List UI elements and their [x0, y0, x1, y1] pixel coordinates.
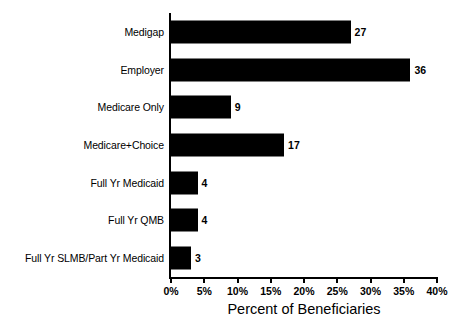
x-axis-tick [370, 277, 372, 283]
bar-value-label: 4 [202, 214, 208, 226]
category-label: Full Yr Medicaid [91, 177, 164, 189]
category-label: Medicare Only [98, 101, 164, 113]
bar-value-label: 3 [195, 252, 201, 264]
category-label: Employer [120, 64, 164, 76]
x-axis-tick-label: 0% [163, 285, 178, 297]
bar-value-label: 27 [355, 26, 367, 38]
bar-chart: Medigap 27 Employer 36 Medicare Only 9 M… [0, 0, 469, 328]
x-axis-tick [336, 277, 338, 283]
x-axis-tick-label: 35% [393, 285, 414, 297]
x-axis-tick-label: 40% [426, 285, 447, 297]
x-axis-tick [203, 277, 205, 283]
x-axis-tick [436, 277, 438, 283]
category-label: Medicare+Choice [83, 139, 164, 151]
x-axis-title: Percent of Beneficiaries [171, 301, 437, 317]
x-axis-tick [303, 277, 305, 283]
x-axis-tick [170, 277, 172, 283]
bar [171, 171, 198, 194]
bar-row: Employer 36 [171, 51, 437, 89]
bar-value-label: 17 [288, 139, 300, 151]
x-axis-tick-label: 30% [360, 285, 381, 297]
x-axis-tick-label: 25% [327, 285, 348, 297]
bar-row: Full Yr QMB 4 [171, 202, 437, 240]
bar-row: Full Yr SLMB/Part Yr Medicaid 3 [171, 239, 437, 277]
bar-row: Full Yr Medicaid 4 [171, 164, 437, 202]
bar [171, 20, 351, 43]
bar [171, 247, 191, 270]
x-axis-tick-label: 10% [227, 285, 248, 297]
bar-value-label: 36 [414, 64, 426, 76]
bar [171, 96, 231, 119]
bar [171, 209, 198, 232]
x-axis-tick [237, 277, 239, 283]
bar [171, 133, 284, 156]
bar-row: Medicare Only 9 [171, 88, 437, 126]
category-label: Full Yr QMB [108, 214, 164, 226]
plot-area: Medigap 27 Employer 36 Medicare Only 9 M… [171, 13, 437, 277]
bar-row: Medicare+Choice 17 [171, 126, 437, 164]
category-label: Medigap [124, 26, 164, 38]
x-axis-tick-label: 20% [293, 285, 314, 297]
x-axis-tick [270, 277, 272, 283]
x-axis-tick-label: 5% [197, 285, 212, 297]
bar-row: Medigap 27 [171, 13, 437, 51]
bar [171, 58, 410, 81]
x-axis-tick-label: 15% [260, 285, 281, 297]
x-axis-tick [403, 277, 405, 283]
category-label: Full Yr SLMB/Part Yr Medicaid [25, 252, 164, 264]
bar-value-label: 4 [202, 177, 208, 189]
bar-value-label: 9 [235, 101, 241, 113]
